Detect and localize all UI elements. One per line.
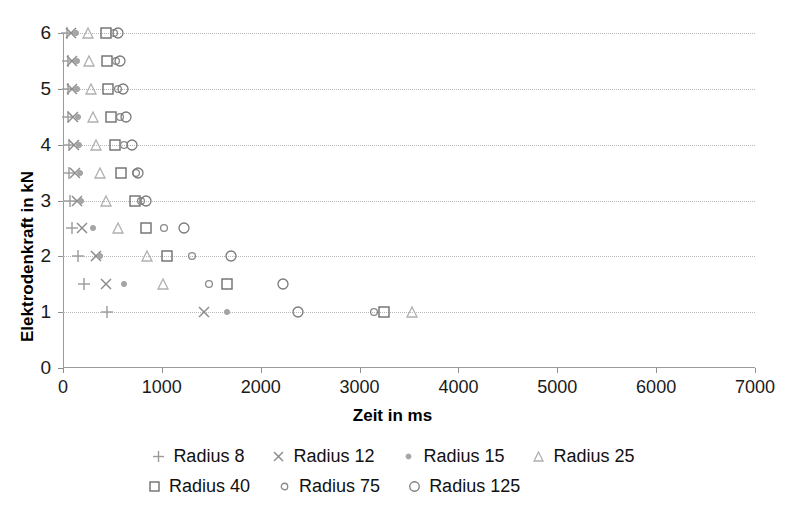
data-point (224, 249, 238, 263)
data-point (177, 221, 191, 235)
data-point (117, 277, 131, 291)
data-point (160, 249, 174, 263)
data-point (157, 221, 171, 235)
data-point (71, 249, 85, 263)
y-axis-tick-label: 0 (11, 358, 51, 377)
x-axis-tick-label: 6000 (621, 378, 691, 396)
data-point (73, 166, 87, 180)
legend-item-radius-40[interactable]: Radius 40 (146, 476, 250, 497)
dot-marker-icon (400, 448, 416, 464)
legend-item-label: Radius 12 (293, 446, 374, 467)
x-axis-tick (656, 368, 657, 373)
x-axis-tick-label: 1000 (127, 378, 197, 396)
data-point (99, 277, 113, 291)
y-axis-tick (58, 256, 63, 257)
y-axis-tick (58, 312, 63, 313)
data-point (71, 110, 85, 124)
legend-item-label: Radius 8 (173, 446, 244, 467)
data-point (100, 305, 114, 319)
data-point (291, 305, 305, 319)
x-axis-tick (261, 368, 262, 373)
triangle-marker-icon (531, 448, 547, 464)
data-point (197, 305, 211, 319)
legend-item-label: Radius 125 (429, 476, 520, 497)
x-axis-tick (162, 368, 163, 373)
legend-item-radius-125[interactable]: Radius 125 (406, 476, 520, 497)
y-axis-tick-label: 3 (11, 191, 51, 210)
data-point (70, 82, 84, 96)
data-point (72, 138, 86, 152)
legend-item-label: Radius 25 (554, 446, 635, 467)
legend-row-1: Radius 8Radius 12Radius 15Radius 25 (0, 441, 785, 471)
data-point (125, 138, 139, 152)
x-axis-tick-label: 0 (28, 378, 98, 396)
data-point (114, 166, 128, 180)
data-point (113, 54, 127, 68)
gridline (63, 33, 755, 34)
legend-item-label: Radius 15 (423, 446, 504, 467)
x-axis-tick (63, 368, 64, 373)
legend-item-label: Radius 40 (169, 476, 250, 497)
data-point (202, 277, 216, 291)
data-point (82, 54, 96, 68)
data-point (99, 194, 113, 208)
y-axis-tick-label: 2 (11, 246, 51, 265)
data-point (84, 82, 98, 96)
data-point (131, 166, 145, 180)
x-axis-line (63, 367, 755, 368)
legend-item-radius-8[interactable]: Radius 8 (150, 446, 244, 467)
data-point (111, 26, 125, 40)
data-point (220, 277, 234, 291)
y-axis-tick (58, 201, 63, 202)
legend-row-2: Radius 40Radius 75Radius 125 (0, 471, 785, 501)
scatter-chart: Elektrodenkraft in kN Zeit in ms 0123456… (0, 0, 785, 505)
data-point (77, 277, 91, 291)
gridline (63, 89, 755, 90)
data-point (139, 221, 153, 235)
legend: Radius 8Radius 12Radius 15Radius 25 Radi… (0, 441, 785, 501)
data-point (74, 194, 88, 208)
data-point (111, 221, 125, 235)
data-point (116, 82, 130, 96)
data-point (156, 277, 170, 291)
data-point (367, 305, 381, 319)
data-point (93, 249, 107, 263)
circle-small-marker-icon (276, 478, 292, 494)
x-axis-tick-label: 2000 (226, 378, 296, 396)
legend-item-label: Radius 75 (299, 476, 380, 497)
data-point (93, 166, 107, 180)
x-axis-tick-label: 7000 (720, 378, 785, 396)
legend-item-radius-15[interactable]: Radius 15 (400, 446, 504, 467)
x-axis-tick (360, 368, 361, 373)
data-point (81, 26, 95, 40)
data-point (139, 194, 153, 208)
plot-area (63, 33, 755, 368)
data-point (405, 305, 419, 319)
x-axis-title: Zeit in ms (0, 406, 785, 426)
data-point (89, 138, 103, 152)
data-point (119, 110, 133, 124)
data-point (220, 305, 234, 319)
y-axis-tick-label: 6 (11, 23, 51, 42)
data-point (86, 221, 100, 235)
square-marker-icon (146, 478, 162, 494)
gridline (63, 145, 755, 146)
x-axis-tick (755, 368, 756, 373)
cross-marker-icon (270, 448, 286, 464)
data-point (185, 249, 199, 263)
x-axis-tick-label: 5000 (522, 378, 592, 396)
x-axis-tick-label: 3000 (325, 378, 395, 396)
data-point (276, 277, 290, 291)
legend-item-radius-12[interactable]: Radius 12 (270, 446, 374, 467)
legend-item-radius-75[interactable]: Radius 75 (276, 476, 380, 497)
y-axis-tick-label: 5 (11, 79, 51, 98)
x-axis-tick (458, 368, 459, 373)
data-point (86, 110, 100, 124)
y-axis-tick-label: 1 (11, 302, 51, 321)
data-point (140, 249, 154, 263)
y-axis-tick-label: 4 (11, 135, 51, 154)
plus-marker-icon (150, 448, 166, 464)
gridline (63, 201, 755, 202)
x-axis-tick (557, 368, 558, 373)
legend-item-radius-25[interactable]: Radius 25 (531, 446, 635, 467)
